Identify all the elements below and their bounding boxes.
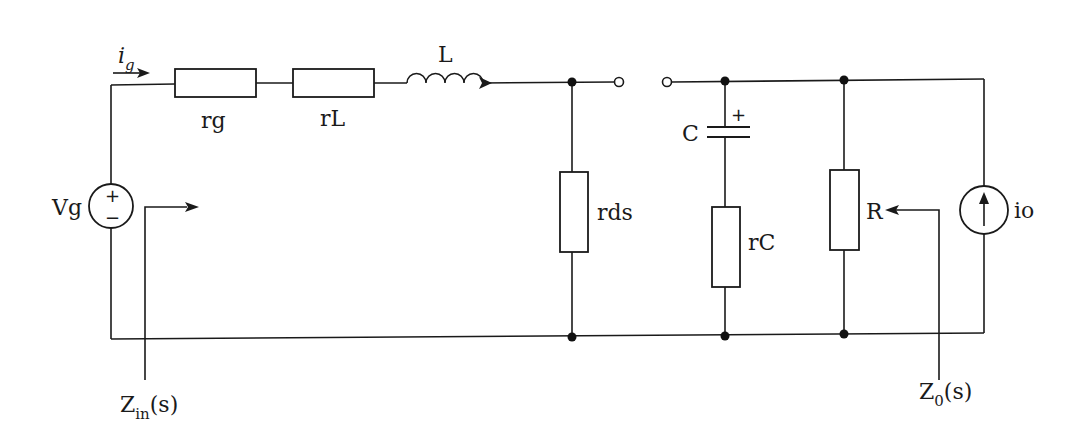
capacitor-polarity: + (731, 104, 746, 125)
open-terminal-left (615, 78, 624, 87)
input-current-label: ig (118, 43, 135, 74)
output-impedance-label: Z0(s) (919, 379, 972, 410)
resistor-rds-label: rds (597, 200, 633, 225)
capacitor-C: + C (682, 104, 750, 146)
resistor-rL-label: rL (320, 106, 346, 131)
current-source-label: io (1014, 198, 1034, 223)
inductor-arrow-icon (479, 77, 492, 89)
resistor-rds: rds (560, 172, 633, 252)
input-impedance-indicator: Zin(s) (120, 202, 199, 423)
resistor-R: R (830, 170, 884, 250)
voltage-source-Vg: + − Vg (51, 184, 133, 228)
current-source-io: io (960, 186, 1034, 234)
resistor-rC: rC (712, 207, 775, 287)
plus-sign: + (105, 185, 120, 206)
switch-terminals (615, 78, 672, 87)
input-current-arrow: ig (113, 43, 150, 78)
arrow-right-icon (185, 202, 199, 212)
voltage-source-label: Vg (51, 195, 82, 220)
inductor-L: L (407, 42, 492, 89)
minus-sign: − (105, 207, 120, 228)
input-impedance-label: Zin(s) (120, 392, 178, 423)
capacitor-label: C (682, 121, 699, 146)
resistor-R-label: R (866, 199, 884, 224)
circuit-diagram: ig rg rL L + − Vg Zin(s) (0, 0, 1075, 437)
resistor-rg-label: rg (201, 108, 226, 133)
resistor-rC-label: rC (748, 230, 775, 255)
inductor-label: L (438, 42, 453, 67)
resistor-rL: rL (293, 69, 374, 131)
open-terminal-right (663, 78, 672, 87)
output-impedance-indicator: Z0(s) (885, 205, 972, 410)
resistor-rg: rg (175, 69, 256, 133)
